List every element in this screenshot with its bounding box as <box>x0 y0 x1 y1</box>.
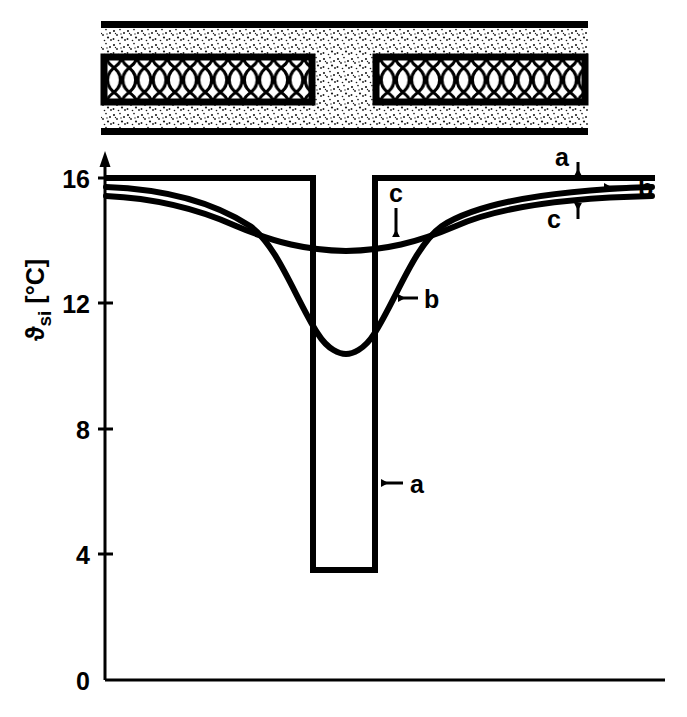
y-tick-label-4: 4 <box>76 541 90 569</box>
annotation-b-right-label: b <box>638 174 653 202</box>
annotation-a-right-label: a <box>555 143 570 171</box>
y-tick-label-12: 12 <box>62 290 90 318</box>
wall-cross-section <box>101 21 588 135</box>
insulation-layer-left <box>104 57 312 102</box>
y-tick-label-8: 8 <box>76 416 90 444</box>
temperature-distribution-figure: 16 12 8 4 0 ϑsi [°C] a <box>0 0 687 717</box>
annotation-c-middle-label: c <box>389 179 403 207</box>
figure-root: 16 12 8 4 0 ϑsi [°C] a <box>0 0 687 717</box>
annotation-a-middle-label: a <box>410 470 425 498</box>
slab-line-top <box>101 21 588 28</box>
annotation-c-right-label: c <box>547 205 561 233</box>
y-axis-subscript: si <box>34 311 55 327</box>
slab-line-bottom <box>101 128 588 135</box>
insulation-layer-right <box>376 57 585 102</box>
y-axis-symbol: ϑ <box>21 326 49 341</box>
y-tick-label-0: 0 <box>76 667 90 695</box>
annotation-b-middle-label: b <box>424 285 439 313</box>
y-tick-label-16: 16 <box>62 165 90 193</box>
y-axis-unit: [°C] <box>21 259 49 304</box>
